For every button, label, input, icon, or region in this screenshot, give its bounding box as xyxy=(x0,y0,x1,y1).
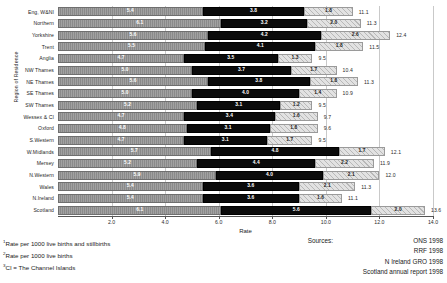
bar-segment[interactable]: 5.2 xyxy=(58,159,197,168)
segment-value-label: 2.0 xyxy=(395,208,402,213)
bar-segment[interactable]: 3.1 xyxy=(187,124,270,133)
bar-segment[interactable]: 5.0 xyxy=(58,89,192,98)
bar-segment[interactable]: 3.5 xyxy=(184,54,278,63)
bar-segment[interactable]: 4.8 xyxy=(211,147,340,156)
segment-value-label: 1.6 xyxy=(293,114,300,119)
segment-value-label: 3.4 xyxy=(226,114,233,119)
segment-value-label: 5.7 xyxy=(131,149,138,154)
bar-segment[interactable]: 1.8 xyxy=(310,77,358,86)
stacked-bar[interactable]: 5.63.81.8 xyxy=(58,77,358,86)
bar-segment[interactable]: 4.1 xyxy=(205,42,315,51)
stacked-bar[interactable]: 5.74.81.7 xyxy=(58,147,385,156)
bar-row: Trent5.54.11.811.5 xyxy=(58,42,433,51)
bar-total-label: 11.5 xyxy=(369,44,379,50)
bar-segment[interactable]: 2.0 xyxy=(307,19,361,28)
segment-value-label: 5.0 xyxy=(121,68,128,73)
segment-value-label: 3.8 xyxy=(255,79,262,84)
bar-segment[interactable]: 2.2 xyxy=(315,159,374,168)
bar-segment[interactable]: 1.6 xyxy=(299,194,342,203)
stacked-bar[interactable]: 4.83.11.8 xyxy=(58,124,318,133)
stacked-bar[interactable]: 4.73.41.6 xyxy=(58,112,318,121)
bar-segment[interactable]: 3.2 xyxy=(221,19,307,28)
bar-segment[interactable]: 1.8 xyxy=(315,42,363,51)
stacked-bar[interactable]: 6.15.62.0 xyxy=(58,206,425,215)
bar-segment[interactable]: 1.7 xyxy=(339,147,385,156)
bar-segment[interactable]: 2.0 xyxy=(371,206,425,215)
bar-row: N.Ireland5.43.61.611.1 xyxy=(58,194,433,203)
bar-segment[interactable]: 3.8 xyxy=(208,77,310,86)
bar-row: Mersey5.24.42.211.9 xyxy=(58,159,433,168)
segment-value-label: 4.2 xyxy=(261,33,268,38)
bar-segment[interactable]: 5.4 xyxy=(58,194,203,203)
bar-segment[interactable]: 4.7 xyxy=(58,112,184,121)
bar-segment[interactable]: 5.6 xyxy=(58,77,208,86)
category-label: W.Midlands xyxy=(27,149,54,155)
segment-value-label: 1.6 xyxy=(317,196,324,201)
sources-block: Sources: ONS 1998 RRF 1998 N Ireland GRO… xyxy=(363,236,443,278)
bar-segment[interactable]: 4.0 xyxy=(192,89,299,98)
footnote-text-3: CI = The Channel Islands xyxy=(5,264,75,271)
bar-segment[interactable]: 1.8 xyxy=(304,7,352,16)
bar-segment[interactable]: 4.2 xyxy=(208,31,321,40)
chart-container: Region of Residence Eng, W&NI5.43.81.811… xyxy=(0,0,447,283)
bar-row: NE Thames5.63.81.811.3 xyxy=(58,77,433,86)
stacked-bar[interactable]: 5.24.42.2 xyxy=(58,159,374,168)
bar-segment[interactable]: 4.8 xyxy=(58,124,187,133)
bar-total-label: 9.5 xyxy=(318,102,325,108)
stacked-bar[interactable]: 5.43.61.6 xyxy=(58,194,342,203)
bar-segment[interactable]: 5.9 xyxy=(58,171,216,180)
stacked-bar[interactable]: 5.64.22.6 xyxy=(58,31,390,40)
bar-segment[interactable]: 3.7 xyxy=(192,66,291,75)
bar-segment[interactable]: 3.6 xyxy=(203,194,299,203)
stacked-bar[interactable]: 5.43.62.1 xyxy=(58,182,355,191)
bar-segment[interactable]: 2.1 xyxy=(299,182,355,191)
segment-value-label: 1.7 xyxy=(286,138,293,143)
segment-value-label: 4.1 xyxy=(257,44,264,49)
bar-segment[interactable]: 4.7 xyxy=(58,136,184,145)
bar-segment[interactable]: 5.5 xyxy=(58,42,205,51)
bar-total-label: 10.4 xyxy=(343,67,353,73)
bar-segment[interactable]: 5.4 xyxy=(58,7,203,16)
bar-segment[interactable]: 6.1 xyxy=(58,206,221,215)
bar-segment[interactable]: 5.2 xyxy=(58,101,197,110)
bar-total-label: 13.6 xyxy=(431,207,441,213)
segment-value-label: 4.7 xyxy=(117,114,124,119)
bar-segment[interactable]: 3.1 xyxy=(184,136,267,145)
bar-segment[interactable]: 4.4 xyxy=(197,159,315,168)
segment-value-label: 5.2 xyxy=(124,103,131,108)
bar-segment[interactable]: 1.7 xyxy=(291,66,337,75)
bar-segment[interactable]: 5.6 xyxy=(58,31,208,40)
bar-segment[interactable]: 5.4 xyxy=(58,182,203,191)
bar-total-label: 11.9 xyxy=(380,160,390,166)
segment-value-label: 1.8 xyxy=(330,79,337,84)
stacked-bar[interactable]: 5.03.71.7 xyxy=(58,66,337,75)
bar-segment[interactable]: 3.8 xyxy=(203,7,305,16)
bar-segment[interactable]: 4.0 xyxy=(216,171,323,180)
stacked-bar[interactable]: 5.54.11.8 xyxy=(58,42,363,51)
bar-segment[interactable]: 6.1 xyxy=(58,19,221,28)
stacked-bar[interactable]: 4.73.51.3 xyxy=(58,54,312,63)
bar-segment[interactable]: 1.8 xyxy=(270,124,318,133)
bar-segment[interactable]: 4.7 xyxy=(58,54,184,63)
bar-segment[interactable]: 2.1 xyxy=(323,171,379,180)
bar-segment[interactable]: 1.3 xyxy=(278,54,313,63)
bar-segment[interactable]: 3.1 xyxy=(197,101,280,110)
stacked-bar[interactable]: 4.73.11.7 xyxy=(58,136,312,145)
stacked-bar[interactable]: 6.13.22.0 xyxy=(58,19,361,28)
bar-segment[interactable]: 3.4 xyxy=(184,112,275,121)
bar-row: S.Western4.73.11.79.5 xyxy=(58,136,433,145)
stacked-bar[interactable]: 5.04.01.4 xyxy=(58,89,337,98)
bar-segment[interactable]: 5.0 xyxy=(58,66,192,75)
bar-segment[interactable]: 3.6 xyxy=(203,182,299,191)
bar-segment[interactable]: 1.7 xyxy=(267,136,313,145)
bar-segment[interactable]: 1.2 xyxy=(280,101,312,110)
stacked-bar[interactable]: 5.43.81.8 xyxy=(58,7,353,16)
stacked-bar[interactable]: 5.23.11.2 xyxy=(58,101,312,110)
bar-segment[interactable]: 5.6 xyxy=(221,206,371,215)
bar-segment[interactable]: 5.7 xyxy=(58,147,211,156)
bar-segment[interactable]: 1.4 xyxy=(299,89,337,98)
bar-segment[interactable]: 2.6 xyxy=(321,31,391,40)
stacked-bar[interactable]: 5.94.02.1 xyxy=(58,171,379,180)
bar-segment[interactable]: 1.6 xyxy=(275,112,318,121)
category-label: Mersey xyxy=(37,160,54,166)
